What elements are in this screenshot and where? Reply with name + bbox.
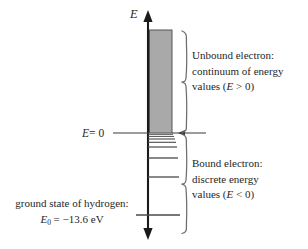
ground-state-annotation: ground state of hydrogen: E0 = −13.6 eV <box>8 196 136 228</box>
e-zero-label-value: = 0 <box>89 127 104 139</box>
energy-level-lines <box>136 134 180 215</box>
unbound-annotation-line3-suffix: > 0) <box>233 80 254 92</box>
bound-annotation-line2: discrete energy <box>192 173 259 185</box>
bound-annotation-line3-suffix: < 0) <box>233 188 254 200</box>
energy-level-diagram: E E= 0 Unbound electron: continuum of en… <box>0 0 308 249</box>
bound-annotation-line1: Bound electron: <box>192 157 263 169</box>
unbound-annotation-line1: Unbound electron: <box>192 49 274 61</box>
axis-arrow-down-icon <box>143 228 152 240</box>
unbound-annotation-line2: continuum of energy <box>192 65 283 77</box>
e-zero-label: E= 0 <box>82 126 104 141</box>
ground-state-value: = −13.6 eV <box>54 213 104 225</box>
unbound-region-brace <box>182 31 187 133</box>
ground-state-annotation-line1: ground state of hydrogen: <box>15 197 128 209</box>
bound-electron-annotation: Bound electron: discrete energy values (… <box>192 156 304 203</box>
unbound-annotation-line3-prefix: values ( <box>192 80 227 92</box>
continuum-band <box>150 30 173 133</box>
bound-annotation-line3-prefix: values ( <box>192 188 227 200</box>
unbound-electron-annotation: Unbound electron: continuum of energy va… <box>192 48 304 95</box>
axis-label-energy: E <box>130 6 138 22</box>
bound-region-brace <box>182 134 187 234</box>
e-zero-label-variable: E <box>82 127 89 139</box>
axis-arrow-up-icon <box>143 10 152 22</box>
ground-state-annotation-line2: E0 = −13.6 eV <box>8 212 136 228</box>
ground-state-subscript: 0 <box>47 218 51 227</box>
